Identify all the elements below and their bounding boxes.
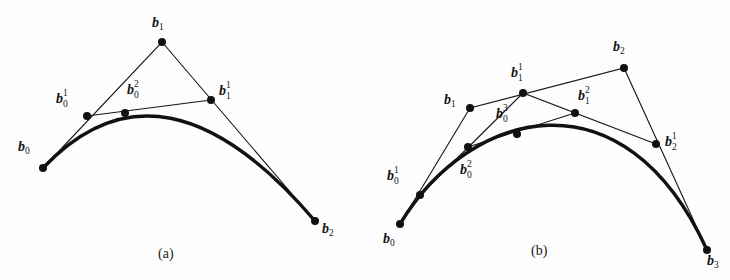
panel-b-point-b1-2 bbox=[571, 109, 579, 117]
label-panel-a-b0-1: b10 bbox=[56, 92, 70, 107]
caption-panel-a: (a) bbox=[158, 246, 174, 262]
label-symbol: b bbox=[387, 168, 394, 183]
panel-b-point-b0-2 bbox=[464, 143, 472, 151]
label-panel-a-b1-1: b11 bbox=[219, 84, 233, 99]
label-panel-a-b0-2: b20 bbox=[127, 83, 141, 98]
panel-b-point-b1 bbox=[466, 104, 474, 112]
panel-b-point-b0-1 bbox=[416, 191, 424, 199]
panel-a-control-polygon bbox=[43, 42, 315, 221]
label-panel-b-b2-1: b12 bbox=[665, 135, 679, 150]
label-subscript: 2 bbox=[329, 228, 334, 238]
panel-a-point-b1 bbox=[158, 38, 166, 46]
panel-b-bezier-curve bbox=[400, 125, 707, 250]
label-panel-b-b2: b2 bbox=[613, 40, 625, 54]
label-subscript: 0 bbox=[394, 177, 399, 187]
label-panel-b-b1-2: b21 bbox=[578, 89, 592, 104]
label-subscript: 1 bbox=[451, 99, 456, 109]
label-panel-b-b1-1: b11 bbox=[511, 66, 525, 81]
label-superscript: 1 bbox=[518, 63, 523, 73]
label-panel-a-b2: b2 bbox=[322, 222, 334, 236]
panel-a-point-b0 bbox=[39, 164, 47, 172]
label-panel-a-b0: b0 bbox=[18, 140, 30, 154]
label-script-stack: 10 bbox=[394, 170, 401, 184]
label-symbol: b bbox=[219, 83, 226, 98]
figure-root: b0 b1 b2 b10 b11 b20 b0 b1 b2 b3 b10 b11… bbox=[0, 0, 730, 280]
label-symbol: b bbox=[707, 253, 714, 268]
label-script-stack: 10 bbox=[63, 93, 70, 107]
panel-b-point-b2 bbox=[620, 64, 628, 72]
label-subscript: 0 bbox=[467, 171, 472, 181]
label-symbol: b bbox=[460, 162, 467, 177]
label-superscript: 3 bbox=[503, 104, 508, 114]
label-panel-b-b0-3: b30 bbox=[496, 107, 510, 122]
label-script-stack: 11 bbox=[226, 85, 233, 99]
label-script-stack: 20 bbox=[467, 164, 474, 178]
label-symbol: b bbox=[613, 39, 620, 54]
label-symbol: b bbox=[152, 15, 159, 30]
panel-a-point-b2 bbox=[311, 217, 319, 225]
label-symbol: b bbox=[444, 92, 451, 107]
label-panel-a-b1: b1 bbox=[152, 16, 164, 30]
label-panel-b-b0: b0 bbox=[383, 232, 395, 246]
label-subscript: 1 bbox=[585, 97, 590, 107]
label-symbol: b bbox=[18, 139, 25, 154]
label-subscript: 3 bbox=[714, 260, 719, 270]
label-superscript: 2 bbox=[134, 80, 139, 90]
label-symbol: b bbox=[496, 106, 503, 121]
label-superscript: 1 bbox=[63, 89, 68, 99]
label-symbol: b bbox=[383, 231, 390, 246]
panel-a-bezier-curve bbox=[43, 116, 315, 221]
panel-b-point-b2-1 bbox=[652, 140, 660, 148]
label-superscript: 2 bbox=[467, 160, 472, 170]
label-superscript: 1 bbox=[226, 81, 231, 91]
label-superscript: 1 bbox=[672, 132, 677, 142]
label-superscript: 2 bbox=[585, 86, 590, 96]
label-subscript: 0 bbox=[390, 238, 395, 248]
panel-a-point-b0-1 bbox=[83, 112, 91, 120]
label-subscript: 2 bbox=[672, 143, 677, 153]
label-script-stack: 30 bbox=[503, 108, 510, 122]
label-script-stack: 20 bbox=[134, 84, 141, 98]
label-panel-b-b0-1: b10 bbox=[387, 169, 401, 184]
label-subscript: 0 bbox=[25, 146, 30, 156]
panel-b-point-b0-3 bbox=[513, 130, 521, 138]
panel-b-point-b0 bbox=[396, 220, 404, 228]
caption-panel-b: (b) bbox=[531, 243, 547, 259]
label-subscript: 0 bbox=[134, 91, 139, 101]
panel-a-point-b1-1 bbox=[207, 96, 215, 104]
panel-a-point-b0-2 bbox=[121, 109, 129, 117]
label-symbol: b bbox=[127, 82, 134, 97]
label-subscript: 1 bbox=[518, 74, 523, 84]
label-panel-b-b3: b3 bbox=[707, 254, 719, 268]
label-script-stack: 11 bbox=[518, 67, 525, 81]
label-subscript: 2 bbox=[620, 46, 625, 56]
label-subscript: 1 bbox=[159, 22, 164, 32]
panel-a-group bbox=[39, 38, 319, 225]
label-symbol: b bbox=[56, 91, 63, 106]
label-symbol: b bbox=[665, 134, 672, 149]
label-superscript: 1 bbox=[394, 166, 399, 176]
label-panel-b-b1: b1 bbox=[444, 93, 456, 107]
label-panel-b-b0-2: b20 bbox=[460, 163, 474, 178]
panel-b-point-b1-1 bbox=[519, 89, 527, 97]
label-symbol: b bbox=[511, 65, 518, 80]
label-subscript: 0 bbox=[63, 100, 68, 110]
label-subscript: 0 bbox=[503, 115, 508, 125]
label-symbol: b bbox=[322, 221, 329, 236]
label-script-stack: 12 bbox=[672, 136, 679, 150]
label-subscript: 1 bbox=[226, 92, 231, 102]
label-script-stack: 21 bbox=[585, 90, 592, 104]
label-symbol: b bbox=[578, 88, 585, 103]
